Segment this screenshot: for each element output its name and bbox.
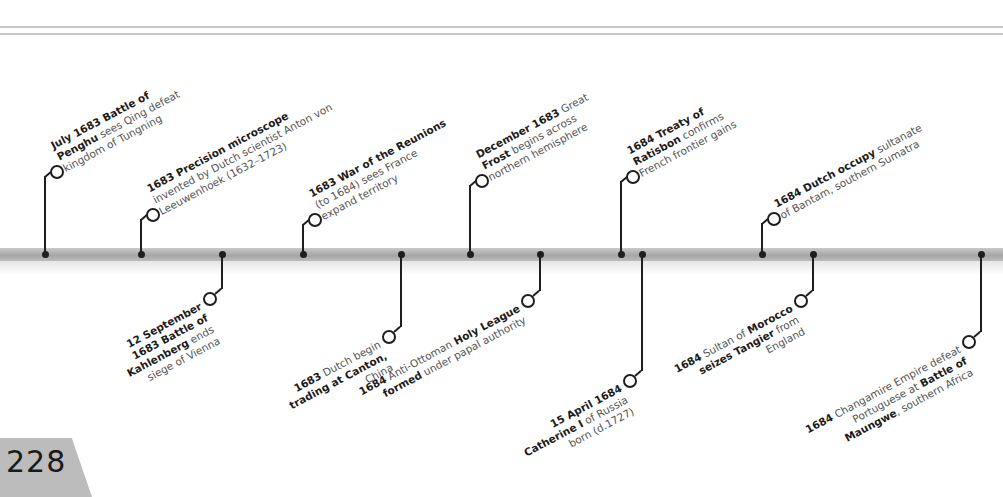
event-label-line: seizes Tangier from bbox=[619, 313, 802, 418]
timeline-bar-shadow bbox=[0, 261, 1003, 275]
event-label-kahlenberg: 12 September1683 Battle ofKahlenberg end… bbox=[21, 300, 222, 440]
event-label-reunions: 1683 War of the Reunions(to 1684) sees F… bbox=[307, 117, 461, 223]
header-rule-bottom bbox=[0, 33, 1003, 35]
event-label-line: of Bantam, southern Sumatra bbox=[778, 133, 930, 222]
event-label-bantam: 1684 Dutch occupy sultanateof Bantam, so… bbox=[772, 121, 930, 222]
event-connector bbox=[620, 181, 622, 254]
event-label-line: (to 1684) sees France bbox=[313, 128, 455, 212]
event-label-frost: December 1683 GreatFrost begins acrossno… bbox=[474, 91, 603, 184]
event-connector bbox=[812, 254, 814, 291]
event-label-penghu: July 1683 Battle ofPenghu sees Qing defe… bbox=[49, 76, 188, 175]
event-marker-ring bbox=[521, 294, 535, 308]
event-connector bbox=[761, 223, 763, 254]
event-connector bbox=[400, 254, 402, 327]
event-marker-ring bbox=[203, 292, 217, 306]
event-label-line: Penghu sees Qing defeat bbox=[55, 88, 182, 164]
event-connector bbox=[469, 185, 471, 254]
event-label-line: Portuguese at Battle of bbox=[787, 354, 970, 459]
timeline-bar bbox=[0, 248, 1003, 261]
event-connector bbox=[641, 254, 643, 371]
header-rule-top bbox=[0, 26, 1003, 28]
event-marker-ring bbox=[794, 294, 808, 308]
event-label-line: born (d.1727) bbox=[454, 405, 637, 497]
event-connector bbox=[539, 254, 541, 291]
event-label-line: Catherine I of Russia bbox=[448, 393, 631, 497]
page-number: 228 bbox=[6, 444, 66, 479]
event-connector bbox=[980, 254, 982, 332]
event-label-ratisbon: 1684 Treaty ofRatisbon confirmsFrench fr… bbox=[625, 95, 739, 180]
event-marker-ring bbox=[962, 335, 976, 349]
event-label-text: of Bantam, southern Sumatra bbox=[778, 137, 921, 221]
event-label-maungwe: 1684 Changamire Empire defeatPortuguese … bbox=[780, 343, 975, 471]
event-label-catherine: 15 April 1684Catherine I of Russiaborn (… bbox=[441, 382, 636, 497]
event-label-line: 1684 Dutch occupy sultanate bbox=[772, 121, 924, 210]
event-connector bbox=[302, 224, 304, 254]
event-connector bbox=[44, 176, 46, 254]
event-marker-ring bbox=[382, 330, 396, 344]
event-connector bbox=[221, 254, 223, 289]
event-connector bbox=[140, 219, 142, 254]
